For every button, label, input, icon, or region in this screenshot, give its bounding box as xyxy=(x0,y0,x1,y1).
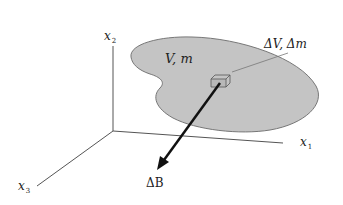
axis-x1 xyxy=(113,131,283,143)
axis-label-x2: x2 xyxy=(104,30,116,45)
axis-label-x3: x3 xyxy=(18,180,30,195)
vector-label: ΔB xyxy=(146,177,163,189)
axis-label-x1: x1 xyxy=(300,136,312,151)
element-label: ΔV, Δm xyxy=(264,38,307,50)
vector-arrowhead xyxy=(157,156,169,170)
diagram-canvas xyxy=(0,0,343,205)
axis-x3 xyxy=(37,131,113,186)
body-label: V, m xyxy=(165,52,193,65)
